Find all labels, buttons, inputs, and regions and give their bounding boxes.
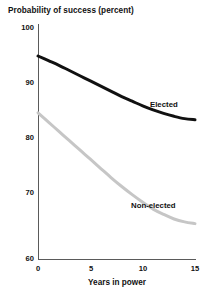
plot-area [0, 0, 207, 298]
chart-figure: Probability of success (percent) 100 90 … [0, 0, 207, 298]
series-label-non-elected: Non-elected [131, 201, 176, 210]
series-label-elected: Elected [150, 100, 178, 109]
data-line-elected [38, 56, 195, 120]
series-group [38, 56, 195, 224]
